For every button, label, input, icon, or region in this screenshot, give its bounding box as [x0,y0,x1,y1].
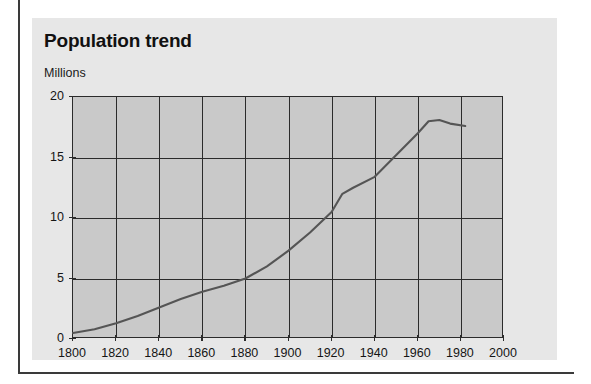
series-line-population [73,97,504,339]
x-axis-tick-label: 1900 [274,346,302,360]
page-title: Population trend [44,30,192,52]
plot-area [72,96,503,338]
x-axis-tick-label: 1840 [144,346,172,360]
x-axis-tick [201,335,202,341]
x-axis-tick-label: 1880 [230,346,258,360]
x-axis-tick [417,335,418,341]
x-axis-tick-label: 1800 [58,346,86,360]
y-axis-unit-label: Millions [44,66,86,80]
page-rule-bottom [18,372,574,374]
y-axis-tick [69,338,76,339]
y-axis-tick-label: 20 [38,89,64,103]
y-axis-tick [69,96,76,97]
x-axis-tick [115,335,116,341]
x-axis-tick-label: 1980 [446,346,474,360]
y-axis-tick-label: 0 [38,331,64,345]
y-axis-tick-label: 15 [38,150,64,164]
y-axis-tick [69,217,76,218]
y-axis-tick [69,157,76,158]
series-path [73,120,465,333]
x-axis-tick-label: 2000 [489,346,517,360]
y-axis-tick [69,278,76,279]
y-axis-tick-label: 5 [38,271,64,285]
x-axis-tick [503,335,504,341]
page-rule-left [18,0,20,374]
y-axis-tick-label: 10 [38,210,64,224]
figure-panel: Population trend Millions 18001820184018… [32,18,557,360]
x-axis-tick [331,335,332,341]
x-axis-tick-label: 1920 [317,346,345,360]
x-axis-tick [460,335,461,341]
x-axis-tick [374,335,375,341]
x-axis-tick [288,335,289,341]
x-axis-tick-label: 1960 [403,346,431,360]
x-axis-tick [244,335,245,341]
x-axis-tick-label: 1820 [101,346,129,360]
x-axis-tick [158,335,159,341]
x-axis-tick-label: 1940 [360,346,388,360]
x-axis-tick-label: 1860 [187,346,215,360]
